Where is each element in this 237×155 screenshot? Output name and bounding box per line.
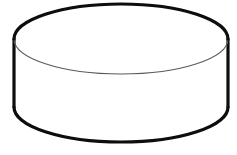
cylinder-body: [14, 4, 228, 142]
figure-canvas: Cylinder line drawing Black outline draw…: [0, 0, 237, 155]
cylinder-figure: Cylinder line drawing Black outline draw…: [0, 0, 237, 155]
